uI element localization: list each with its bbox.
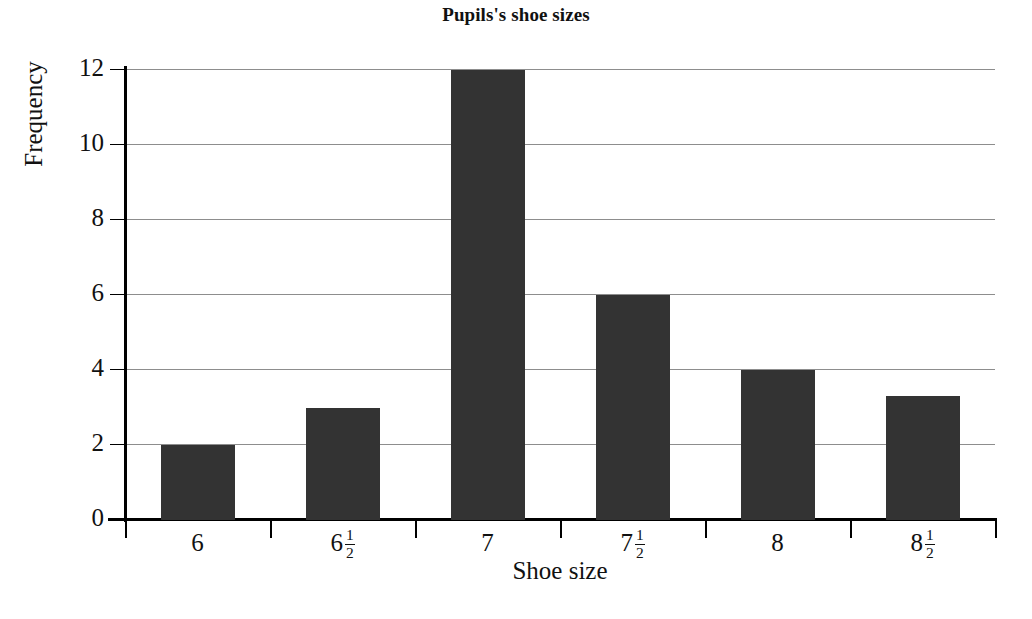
fraction-denominator: 2 [345, 545, 355, 561]
x-tick-label-whole: 6 [191, 529, 204, 556]
x-tick-label-whole: 7 [481, 529, 494, 556]
y-tick-mark [110, 444, 125, 445]
bar [451, 70, 525, 520]
bar [741, 370, 815, 520]
fraction-denominator: 2 [635, 545, 645, 561]
y-axis-tick-labels: 024681012 [34, 0, 104, 619]
x-tick-label-whole: 7 [620, 529, 633, 556]
bar [596, 295, 670, 520]
fraction-denominator: 2 [925, 545, 935, 561]
fraction-half: 12 [635, 527, 645, 561]
y-tick-mark [110, 294, 125, 295]
bar [306, 408, 380, 521]
chart-title: Pupils's shoe sizes [0, 4, 1032, 26]
y-tick-label: 6 [44, 280, 104, 306]
y-tick-mark [110, 219, 125, 220]
x-tick-label-whole: 6 [330, 529, 343, 556]
y-tick-label: 4 [44, 355, 104, 381]
chart-page: Pupils's shoe sizes Frequency Shoe size … [0, 0, 1032, 619]
x-tick-label-whole: 8 [910, 529, 923, 556]
y-tick-label: 0 [44, 505, 104, 531]
x-tick-label: 812 [853, 527, 993, 561]
x-tick-label: 7 [418, 527, 558, 559]
x-tick-mark [995, 521, 997, 538]
fraction-numerator: 1 [345, 527, 355, 544]
x-tick-label: 612 [273, 527, 413, 561]
y-tick-label: 12 [44, 55, 104, 81]
fraction-numerator: 1 [925, 527, 935, 544]
bar [161, 445, 235, 520]
x-tick-label: 712 [563, 527, 703, 561]
fraction-half: 12 [345, 527, 355, 561]
x-tick-label-whole: 8 [771, 529, 784, 556]
y-tick-mark [110, 144, 125, 145]
y-tick-label: 10 [44, 130, 104, 156]
x-tick-label: 6 [128, 527, 268, 559]
y-tick-mark [110, 69, 125, 70]
y-tick-mark [110, 369, 125, 370]
fraction-half: 12 [925, 527, 935, 561]
fraction-numerator: 1 [635, 527, 645, 544]
bar-series [125, 69, 1000, 520]
y-tick-mark [110, 519, 125, 520]
bar [886, 396, 960, 520]
y-tick-label: 2 [44, 430, 104, 456]
x-tick-label: 8 [708, 527, 848, 559]
y-tick-label: 8 [44, 205, 104, 231]
